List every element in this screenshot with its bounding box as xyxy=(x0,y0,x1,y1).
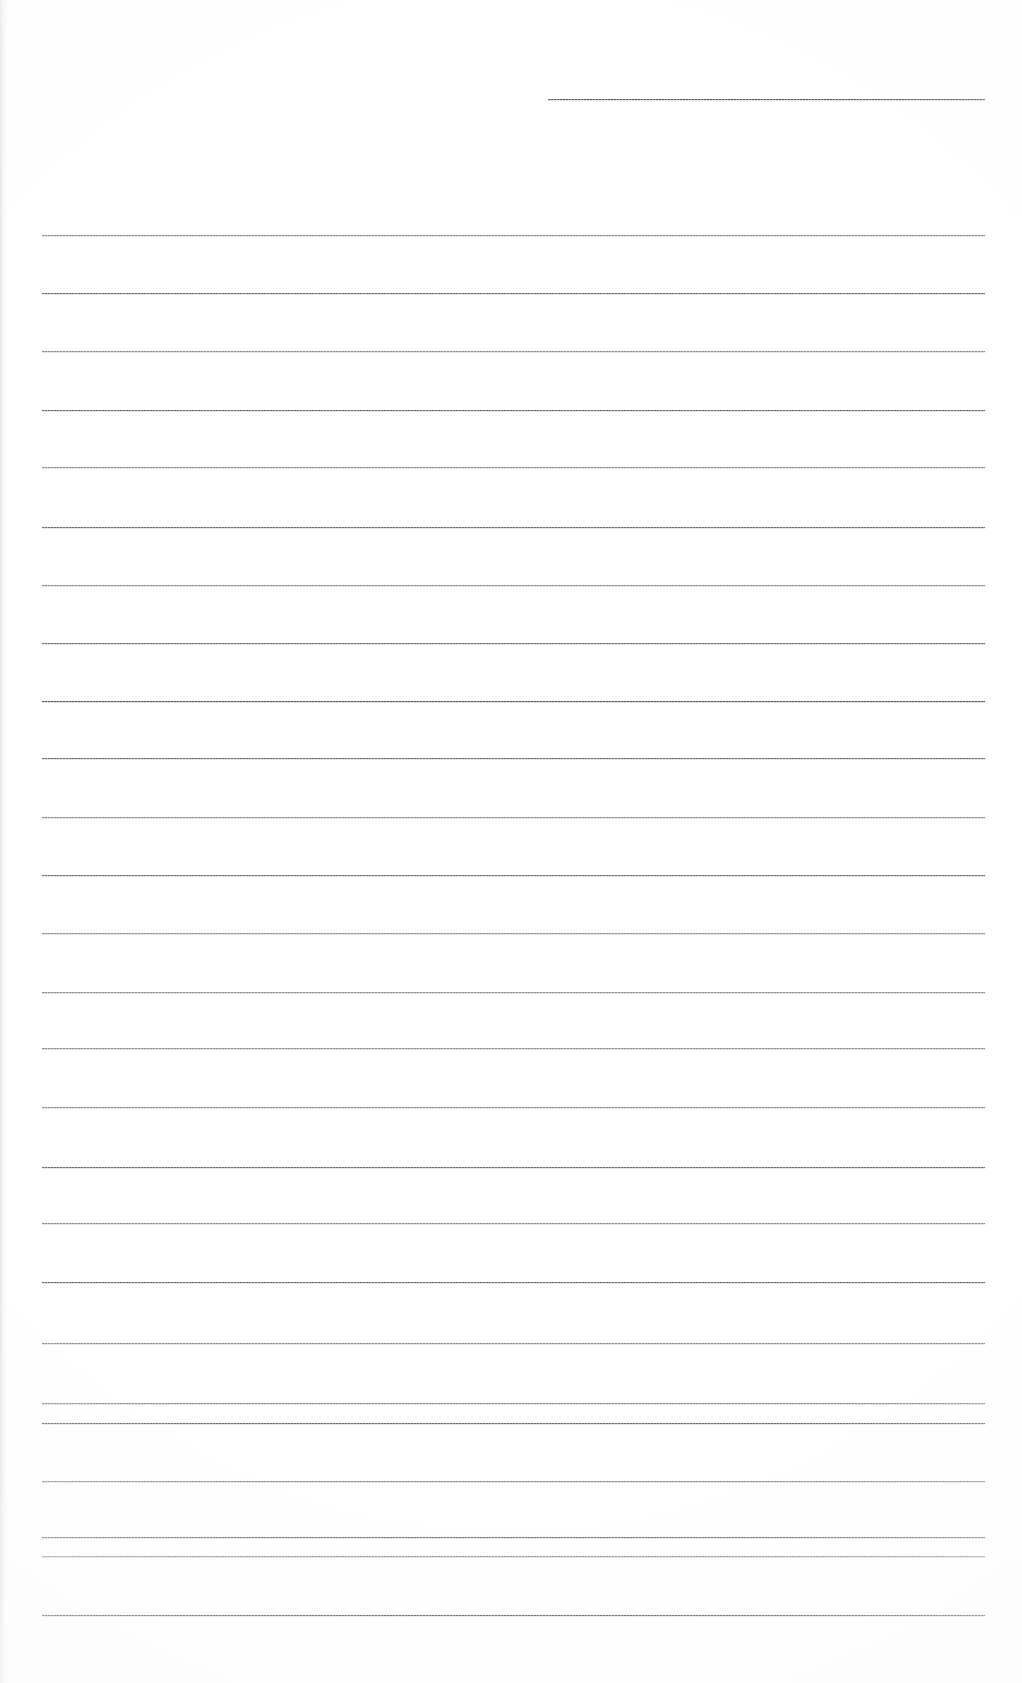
ruled-line xyxy=(42,1167,985,1168)
ruled-line xyxy=(42,643,985,644)
ruled-line xyxy=(42,410,985,411)
ruled-line xyxy=(42,1537,985,1538)
header-rule-line xyxy=(548,99,985,100)
scan-vignette xyxy=(0,0,1022,1683)
ruled-line xyxy=(42,467,985,468)
ruled-line xyxy=(42,758,985,759)
ruled-line xyxy=(42,1048,985,1049)
ruled-line xyxy=(42,293,985,294)
ruled-line xyxy=(42,527,985,528)
ruled-line xyxy=(42,351,985,352)
ruled-line xyxy=(42,1403,985,1404)
ruled-line xyxy=(42,1481,985,1482)
ruled-line xyxy=(42,1423,985,1424)
ruled-line xyxy=(42,1343,985,1344)
ruled-line xyxy=(42,1615,985,1616)
ruled-line xyxy=(42,1107,985,1108)
ruled-line xyxy=(42,875,985,876)
ruled-line xyxy=(42,1223,985,1224)
scan-edge-shadow xyxy=(0,0,7,1683)
ruled-line xyxy=(42,933,985,934)
ruled-line xyxy=(42,701,985,702)
ruled-line xyxy=(42,1556,985,1557)
ruled-line xyxy=(42,1282,985,1283)
ruled-line xyxy=(42,992,985,993)
ruled-line xyxy=(42,235,985,236)
ruled-line xyxy=(42,817,985,818)
scanned-page xyxy=(0,0,1022,1683)
ruled-line xyxy=(42,585,985,586)
